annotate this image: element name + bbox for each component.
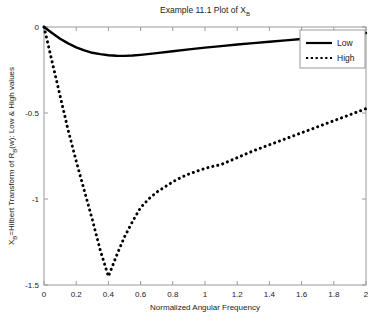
y-axis-label: XB=Hilbert Transform of RB(w): Low & Hig… [7,67,18,245]
x-tick-label: 1 [203,290,208,299]
legend-label-high: High [337,53,355,63]
legend-box [300,30,365,68]
legend-label-low: Low [337,38,353,48]
y-tick-label: -0.5 [25,109,39,118]
figure-container: Example 11.1 Plot of XB XB=Hilbert Trans… [0,0,381,327]
x-tick-label: 0.6 [135,290,147,299]
x-tick-label: 1.4 [264,290,276,299]
x-tick-label: 0.8 [167,290,179,299]
legend[interactable]: Low High [300,30,365,68]
x-tick-label: 1.2 [232,290,244,299]
x-tick-label: 0 [42,290,47,299]
x-tick-label: 1.8 [328,290,340,299]
y-tick-label: -1.5 [25,281,39,290]
x-tick-label: 1.6 [296,290,308,299]
x-tick-label: 0.2 [71,290,83,299]
y-tick-label: -1 [32,195,40,204]
chart-canvas: Example 11.1 Plot of XB XB=Hilbert Trans… [0,0,381,327]
x-tick-label: 2 [364,290,369,299]
chart-title: Example 11.1 Plot of XB [160,5,250,17]
y-tick-label: 0 [35,23,40,32]
x-tick-label: 0.4 [103,290,115,299]
x-axis-label: Normalized Angular Frequency [150,303,260,312]
